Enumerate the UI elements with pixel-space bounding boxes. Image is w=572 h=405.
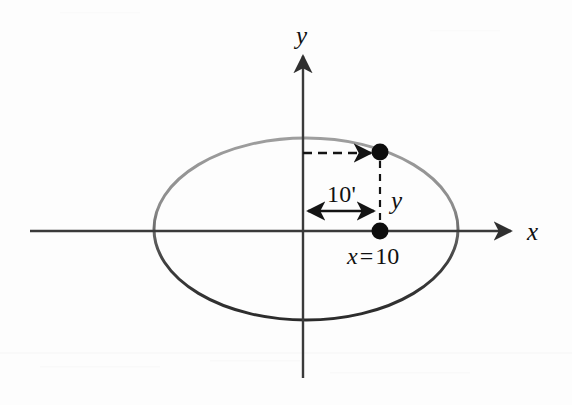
point-coordinate-variable: x — [347, 243, 358, 269]
ellipse-diagram: y x 10' y x=10 — [0, 0, 572, 405]
point-coordinate-equals: = — [358, 243, 376, 269]
diagram-canvas — [0, 0, 572, 405]
x-axis-label: x — [527, 219, 538, 244]
point-on-ellipse-marker — [372, 144, 389, 161]
height-dimension-label: y — [391, 188, 402, 213]
ellipse-shape — [154, 138, 458, 320]
width-dimension-label: 10' — [327, 182, 356, 206]
point-coordinate-value: 10 — [375, 243, 399, 269]
y-axis-label: y — [296, 23, 307, 48]
point-coordinate-label: x=10 — [347, 244, 399, 268]
point-on-axis-marker — [372, 223, 389, 240]
